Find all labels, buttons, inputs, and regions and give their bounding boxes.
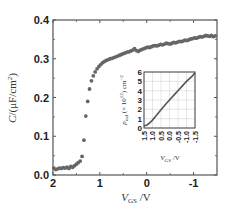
inset-x-tick-label: -0.5 [175, 131, 182, 143]
main-y-axis-title: C/(μF/cm2) [6, 73, 19, 123]
y-tick-label: 0.2 [34, 92, 49, 104]
inset-y-tick-label: 5 [138, 77, 143, 86]
inset-x-tick-label: 0.5 [158, 131, 165, 141]
inset-x-tick-label: -1.5 [192, 131, 199, 143]
inset-y-tick-label: 4 [138, 87, 143, 96]
inset-y-tick-label: 6 [138, 68, 143, 77]
data-point [84, 114, 88, 118]
main-x-axis-title: VGS /V [121, 191, 150, 205]
data-point [82, 138, 86, 142]
inset-y-axis-title: pind (× 1012) cm−2 [119, 75, 129, 126]
inset-x-axis-title: VGS /V [160, 154, 179, 163]
y-tick-label: 0.3 [34, 53, 49, 65]
inset-y-tick-label: 3 [138, 96, 143, 105]
data-point [80, 155, 84, 159]
inset-y-tick-label: 1 [138, 115, 143, 124]
data-point [78, 159, 82, 163]
y-tick-label: 0.4 [34, 14, 50, 26]
x-tick-label: -1 [189, 177, 199, 189]
data-point [88, 87, 92, 91]
inset-x-tick-label: 1.5 [141, 131, 148, 141]
data-point [86, 99, 90, 103]
y-tick-label: 0.1 [34, 130, 49, 142]
inset-x-tick-label: -1.0 [183, 131, 190, 143]
inset-x-tick-label: 0.0 [166, 131, 173, 141]
inset-chart: 01234561.51.00.50.0-0.5-1.0-1.5 pind (× … [119, 68, 199, 163]
data-point [90, 79, 94, 83]
x-tick-label: 1 [97, 177, 103, 189]
y-tick-label: 0.0 [34, 169, 49, 181]
data-point [91, 74, 95, 78]
x-tick-label: 2 [50, 177, 56, 189]
inset-y-tick-label: 2 [138, 105, 143, 114]
capacitance-voltage-chart: 0.00.10.20.30.4210-1 C/(μF/cm2) VGS /V 0… [0, 0, 229, 214]
inset-x-tick-label: 1.0 [149, 131, 156, 141]
x-tick-label: 0 [144, 177, 150, 189]
